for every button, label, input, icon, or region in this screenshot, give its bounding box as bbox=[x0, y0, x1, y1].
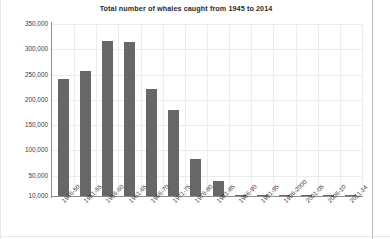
bar bbox=[168, 110, 179, 197]
gridline-vertical bbox=[362, 24, 363, 196]
x-axis-tick-labels: 1946-501951-551956-601961-651966-701971-… bbox=[0, 199, 390, 239]
y-axis-tick-label: 300,000 bbox=[2, 45, 48, 52]
bar bbox=[146, 89, 157, 196]
bar bbox=[124, 42, 135, 196]
y-axis-tick-label: 200,000 bbox=[2, 96, 48, 103]
y-axis-tick-label: 150,000 bbox=[2, 121, 48, 128]
bar bbox=[102, 41, 113, 196]
y-axis-tick-label: 50,000 bbox=[2, 172, 48, 179]
y-axis-tick-label: 10,000 bbox=[2, 192, 48, 199]
y-axis-tick-label: 250,000 bbox=[2, 71, 48, 78]
plot-area bbox=[52, 24, 362, 196]
bar bbox=[58, 79, 69, 196]
y-axis-tick-label: 350,000 bbox=[2, 20, 48, 27]
y-axis-tick-label: 100,000 bbox=[2, 146, 48, 153]
bar-series bbox=[52, 24, 362, 196]
bar bbox=[80, 71, 91, 196]
chart-figure: Total number of whales caught from 1945 … bbox=[0, 0, 390, 239]
chart-title: Total number of whales caught from 1945 … bbox=[0, 4, 372, 13]
